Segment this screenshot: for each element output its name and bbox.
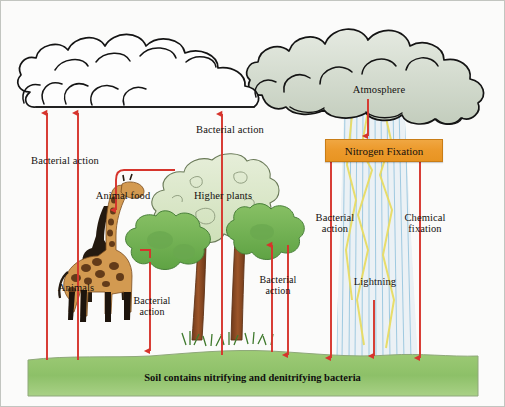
label-bacterial-action-center-top: Bacterial action <box>180 124 280 135</box>
nitrogen-fixation-box: Nitrogen Fixation <box>325 139 443 162</box>
diagram-canvas <box>0 0 505 407</box>
label-lightning: Lightning <box>344 276 406 287</box>
label-bacterial-action-under-animals: Bacterial action <box>124 296 180 317</box>
label-animal-food: Animal food <box>85 190 161 201</box>
label-soil-band: Soil contains nitrifying and denitrifyin… <box>0 372 505 383</box>
label-atmosphere: Atmosphere <box>336 84 422 95</box>
nitrogen-cycle-figure: Atmosphere Nitrogen Fixation Bacterial a… <box>0 0 505 407</box>
label-bacterial-action-left: Bacterial action <box>12 155 118 166</box>
label-bacterial-action-trees: Bacterial action <box>250 275 306 296</box>
label-chemical-fixation: Chemical fixation <box>393 212 457 234</box>
label-bacterial-action-right: Bacterial action <box>305 212 365 234</box>
label-animals: Animals <box>48 282 104 293</box>
label-higher-plants: Higher plants <box>183 190 263 201</box>
nitrogen-fixation-label: Nitrogen Fixation <box>345 145 424 157</box>
